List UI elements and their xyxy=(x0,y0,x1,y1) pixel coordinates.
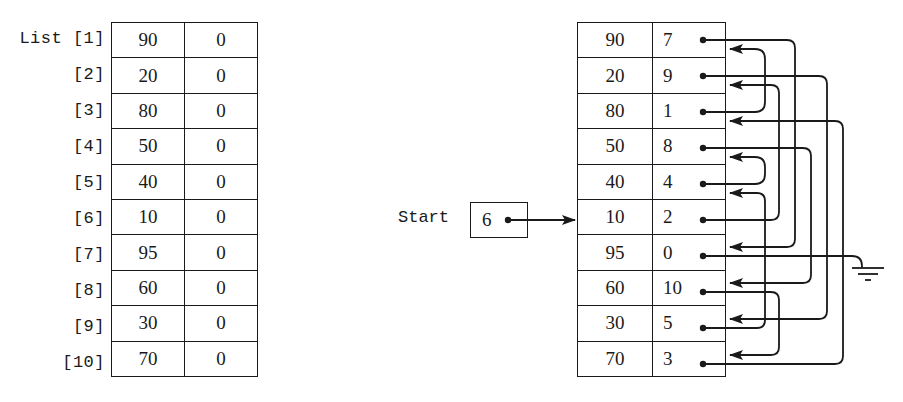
link-arrow-6-to-2 xyxy=(703,85,779,220)
pointer-arrows xyxy=(0,0,903,402)
link-arrow-9-to-5 xyxy=(703,193,765,328)
link-arrow-5-to-4 xyxy=(703,157,765,184)
link-arrow-8-to-10 xyxy=(703,292,779,355)
pointer-dots xyxy=(700,37,706,367)
link-arrow-1-to-7 xyxy=(703,40,795,247)
link-arrow-3-to-1 xyxy=(703,49,765,112)
link-arrow-7-to-null xyxy=(703,256,862,268)
ground-icon xyxy=(852,268,884,280)
start-arrow xyxy=(505,217,575,223)
